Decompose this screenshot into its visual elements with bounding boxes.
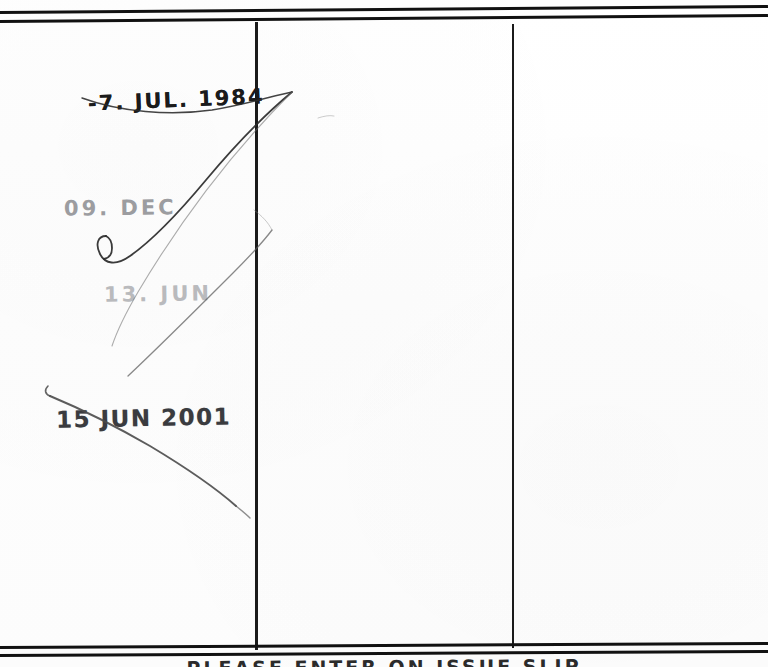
top-border-rule-inner <box>0 14 768 23</box>
date-stamp-1: -7. JUL. 1984 <box>88 84 265 115</box>
column-divider-1 <box>255 22 258 650</box>
date-stamp-3: 13. JUN <box>104 281 212 307</box>
date-stamp-4: 15 JUN 2001 <box>56 403 231 432</box>
scanned-date-due-slip: -7. JUL. 1984 09. DEC 13. JUN 15 JUN 200… <box>0 0 768 667</box>
date-stamp-2: 09. DEC <box>64 195 177 220</box>
bottom-border-rule-outer <box>0 642 768 649</box>
top-border-rule-outer <box>0 5 768 14</box>
ink-fleck-icon <box>318 116 334 118</box>
pen-stroke-upper-icon <box>82 92 292 263</box>
column-divider-2 <box>512 24 514 648</box>
